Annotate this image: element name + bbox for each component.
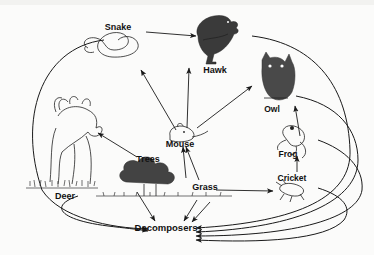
edge-mouse-snake: [141, 70, 176, 130]
edge-grass-mouse-a: [186, 147, 199, 180]
label-trees: Trees: [136, 154, 160, 164]
owl-illustration: [262, 52, 295, 100]
edge-grass-mouse-b: [183, 147, 186, 178]
label-deer: Deer: [55, 191, 76, 201]
edge-mouse-hawk: [187, 68, 189, 128]
recycle-arcs: [33, 36, 363, 241]
food-web-diagram: Snake Hawk Owl Mouse Deer Trees Grass Fr…: [0, 0, 374, 255]
edge-grass-decomposers-b: [192, 202, 210, 222]
hawk-illustration: [197, 15, 238, 64]
label-owl: Owl: [264, 104, 280, 114]
label-snake: Snake: [105, 22, 132, 32]
label-mouse: Mouse: [166, 139, 195, 149]
edge-grass-cricket: [216, 190, 273, 191]
diagram-canvas: Snake Hawk Owl Mouse Deer Trees Grass Fr…: [0, 0, 374, 255]
label-hawk: Hawk: [203, 65, 228, 75]
edge-mouse-owl: [197, 86, 252, 128]
snake-illustration: [84, 33, 138, 58]
edge-trees-deer: [98, 133, 137, 157]
label-cricket: Cricket: [278, 173, 307, 183]
label-grass: Grass: [192, 182, 218, 192]
edge-grass-decomposers-a: [184, 200, 197, 221]
edge-snake-hawk: [146, 32, 196, 36]
edge-frog-owl: [295, 106, 300, 136]
label-decomposers: Decomposers: [135, 222, 198, 233]
edge-owl-decomposers: [196, 96, 358, 232]
label-frog: Frog: [279, 149, 298, 159]
